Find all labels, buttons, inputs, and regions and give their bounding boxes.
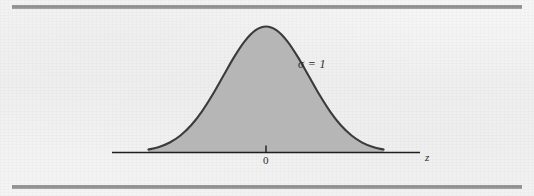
sigma-annotation-label: σ = 1 xyxy=(298,58,326,70)
z-axis-label: z xyxy=(425,152,429,163)
zero-tick-label: 0 xyxy=(263,155,269,166)
distribution-plot xyxy=(0,0,534,196)
normal-distribution-figure: σ = 1 0 z xyxy=(0,0,534,196)
bottom-horizontal-rule xyxy=(12,185,522,189)
